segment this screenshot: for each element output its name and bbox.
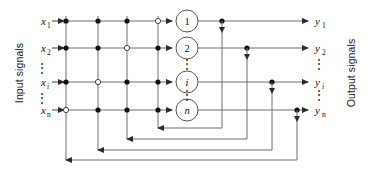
output-ellipsis-upper: ⋮ (313, 57, 325, 71)
output-tap-group (219, 18, 299, 112)
junction-ri-c4 (155, 79, 160, 84)
neuron-1-label: 1 (184, 16, 189, 27)
junction-rn-c3 (124, 107, 129, 112)
input-label-x2-base: x (40, 42, 46, 54)
output-label-y1-sub: 1 (322, 21, 326, 30)
junction-r2-c4 (155, 45, 160, 50)
junction-rn-c4 (155, 107, 160, 112)
input-label-group: x 1 x 2 x i x n ⋮ ⋮ (36, 15, 51, 119)
input-label-x1-base: x (40, 15, 46, 27)
junction-ri-c3 (124, 79, 129, 84)
neuron-ellipsis-lower: ⋮ (181, 88, 193, 102)
figure-root: Input signals Output signals x 1 x 2 x i… (0, 0, 367, 173)
output-label-yn-base: y (314, 104, 320, 116)
junction-r2-c2 (95, 45, 100, 50)
junction-r1-c2 (95, 18, 100, 23)
junction-r2-c1 (63, 45, 68, 50)
input-ellipsis-upper: ⋮ (36, 61, 48, 75)
junction-r1-c3 (124, 18, 129, 23)
input-label-xn-base: x (40, 104, 46, 116)
junction-ri-c2-open (95, 79, 100, 84)
grid-column-group (66, 16, 158, 160)
output-label-y2-base: y (314, 42, 320, 54)
feedback-drop-arrow-yi (269, 88, 275, 94)
junction-rn-c1-open (63, 107, 68, 112)
input-label-x2-sub: 2 (47, 48, 51, 57)
network-diagram: x 1 x 2 x i x n ⋮ ⋮ (0, 0, 367, 173)
neuron-ellipsis-upper: ⋮ (181, 57, 193, 71)
neuron-n-label: n (184, 105, 189, 116)
feedback-drop-arrow-y2 (244, 54, 250, 60)
neuron-i-label: i (186, 77, 189, 88)
neuron-group: 1 2 i n ⋮ ⋮ (176, 10, 198, 121)
input-label-xi-sub: i (47, 82, 49, 91)
output-label-yi-base: y (314, 76, 320, 88)
feedback-drop-arrow-y1 (219, 27, 225, 33)
output-label-y2-sub: 2 (322, 48, 326, 57)
output-ellipsis-lower: ⋮ (313, 88, 325, 102)
junction-ri-c1 (63, 79, 68, 84)
feedback-drop-arrow-yn (294, 116, 300, 122)
output-label-y1-base: y (314, 15, 320, 27)
junction-r1-c4-open (155, 18, 160, 23)
neuron-2-label: 2 (184, 43, 189, 54)
input-label-xi-base: x (40, 76, 46, 88)
junction-r2-c3-open (124, 45, 129, 50)
junction-r1-c1 (63, 18, 68, 23)
grid-junction-group (63, 18, 160, 112)
row-wire-group (66, 21, 172, 110)
output-wire-group (198, 21, 308, 110)
junction-rn-c2 (95, 107, 100, 112)
output-label-group: y 1 y 2 y i y n ⋮ ⋮ (313, 15, 326, 119)
output-label-yn-sub: n (322, 110, 326, 119)
input-arrow-group (52, 21, 64, 110)
input-ellipsis-lower: ⋮ (36, 91, 48, 105)
input-label-x1-sub: 1 (47, 21, 51, 30)
input-label-xn-sub: n (47, 110, 51, 119)
